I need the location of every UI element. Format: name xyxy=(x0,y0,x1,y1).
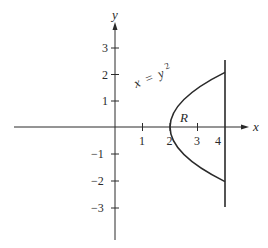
y-axis-label: y xyxy=(110,7,118,22)
x-tick-label-4: 4 xyxy=(215,134,221,148)
x-axis-arrow-icon xyxy=(241,125,249,130)
y-tick-label-neg2: −2 xyxy=(91,174,104,188)
y-tick-label-1: 1 xyxy=(102,94,108,108)
x-tick-label-1: 1 xyxy=(139,134,145,148)
y-tick-label-3: 3 xyxy=(102,41,108,55)
x-tick-label-3: 3 xyxy=(194,134,200,148)
diagram-canvas: x y 1 2 3 4 3 2 1 −1 −2 −3 x = y 2 R xyxy=(0,0,268,248)
region-label: R xyxy=(179,110,188,125)
y-axis-arrow-icon xyxy=(113,22,118,30)
y-tick-label-neg3: −3 xyxy=(91,201,104,215)
svg-text:x = y 2: x = y 2 xyxy=(130,60,174,91)
x-axis-label: x xyxy=(252,119,259,134)
y-tick-label-2: 2 xyxy=(102,68,108,82)
curve-label: x = y 2 xyxy=(130,60,174,91)
y-tick-label-neg1: −1 xyxy=(91,147,104,161)
region-diagram: x y 1 2 3 4 3 2 1 −1 −2 −3 x = y 2 R xyxy=(0,0,268,248)
